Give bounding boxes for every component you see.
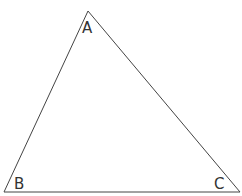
triangle-abc — [4, 11, 240, 192]
vertex-label-a: A — [82, 19, 93, 37]
vertex-label-b: B — [14, 175, 24, 193]
triangle-diagram: A B C — [0, 0, 242, 196]
vertex-label-c: C — [214, 175, 224, 193]
